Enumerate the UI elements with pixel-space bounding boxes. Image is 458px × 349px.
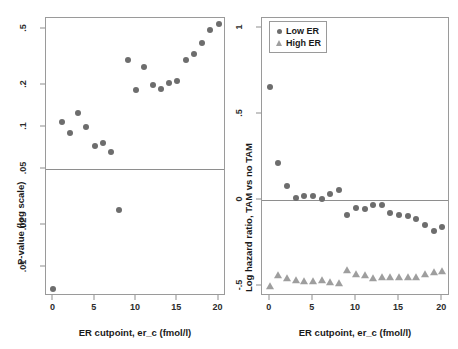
data-point [395,273,403,280]
x-axis-title-right: ER cutpoint, er_c (fmol/l) [261,327,449,338]
data-point [50,286,56,292]
data-point [379,202,385,208]
data-point [266,282,274,289]
data-point [431,228,437,234]
y-axis-tick-label: .5 [18,15,28,41]
y-axis-tick [256,113,261,114]
figure-canvas: .5.2.1.05.02.0105101520 P-value (log sca… [0,0,458,349]
x-axis-tick-label: 0 [50,302,55,312]
data-point [166,80,172,86]
data-point [207,27,213,33]
data-point [370,202,376,208]
reference-line-0 [262,200,448,201]
y-axis-tick-label: .1 [18,113,28,139]
panel-loghr: 1.50-.505101520 Log hazard ratio, TAM vs… [229,0,458,349]
x-axis-tick [355,295,356,300]
data-point [438,267,446,274]
data-point [439,224,445,230]
y-axis-tick [40,168,45,169]
data-point [361,272,369,279]
x-axis-tick-label: 15 [393,302,403,312]
data-point [216,21,222,27]
data-point [309,277,317,284]
data-point [293,195,299,201]
data-point [344,212,350,218]
data-point [318,276,326,283]
x-axis-tick [398,295,399,300]
data-point [108,149,114,155]
y-axis-tick [256,284,261,285]
data-point [75,110,81,116]
plot-area-right [262,18,448,294]
x-axis-tick [176,295,177,300]
x-axis-tick-label: 15 [171,302,181,312]
data-point [378,273,386,280]
y-axis-tick-label: 1 [234,14,244,40]
x-axis-tick-label: 0 [266,302,271,312]
data-point [292,276,300,283]
data-point [274,272,282,279]
x-axis-tick-label: 5 [91,302,96,312]
circle-marker-icon [273,29,285,34]
x-axis-tick [135,295,136,300]
x-axis-tick-label: 20 [213,302,223,312]
data-point [422,222,428,228]
y-axis-title-left: P-value (log scale) [15,182,26,265]
data-point [353,205,359,211]
legend-item-high-er: High ER [273,37,321,49]
data-point [191,51,197,57]
x-axis-tick-label: 5 [309,302,314,312]
legend-label-high-er: High ER [286,38,321,48]
data-point [396,212,402,218]
data-point [413,216,419,222]
data-point [430,268,438,275]
data-point [336,187,342,193]
panel-pvalue: .5.2.1.05.02.0105101520 P-value (log sca… [0,0,229,349]
y-axis-tick [40,83,45,84]
data-point [116,207,122,213]
x-axis-tick [441,295,442,300]
data-point [310,193,316,199]
y-axis-title-right: Log hazard ratio, TAM vs no TAM [243,143,254,292]
y-axis-tick-label: .5 [234,100,244,126]
y-axis-tick [40,28,45,29]
data-point [174,78,180,84]
data-point [59,119,65,125]
plot-frame-right [261,17,449,295]
data-point [386,273,394,280]
x-axis-tick-label: 10 [350,302,360,312]
data-point [404,273,412,280]
y-axis-tick [40,265,45,266]
legend-label-low-er: Low ER [286,26,319,36]
data-point [100,140,106,146]
y-axis-tick [40,125,45,126]
y-axis-tick [40,223,45,224]
data-point [283,274,291,281]
data-point [133,87,139,93]
x-axis-tick-label: 10 [130,302,140,312]
data-point [158,86,164,92]
data-point [405,213,411,219]
data-point [327,191,333,197]
x-axis-tick-label: 20 [436,302,446,312]
data-point [300,277,308,284]
y-axis-tick [256,27,261,28]
y-axis-tick-label: .2 [18,71,28,97]
x-axis-title-left: ER cutpoint, er_c (fmol/l) [45,327,225,338]
plot-frame-left [45,17,225,295]
data-point [83,124,89,130]
data-point [335,279,343,286]
data-point [125,57,131,63]
triangle-marker-icon [273,40,285,46]
legend: Low ER High ER [269,21,327,53]
data-point [183,57,189,63]
x-axis-tick [217,295,218,300]
data-point [362,206,368,212]
data-point [343,266,351,273]
data-point [150,82,156,88]
x-axis-tick [311,295,312,300]
data-point [301,193,307,199]
data-point [319,196,325,202]
plot-area-left [46,18,224,294]
x-axis-tick [268,295,269,300]
